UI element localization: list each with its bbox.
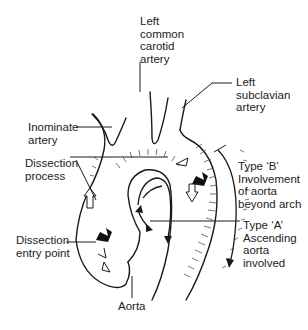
label-left-subclavian: Left subclavian artery [236,76,290,114]
type-b-arrowhead [226,258,234,268]
entry-point-tear [96,228,112,242]
aortic-dissection-diagram: Left common carotid artery Left subclavi… [0,0,308,330]
label-aorta: Aorta [118,300,146,313]
subclavian-left-wall [180,100,186,130]
aorta-inner-wall [128,170,172,300]
aorta-outer-left-wall [76,114,130,288]
type-b-arrow [218,150,236,262]
label-dissection-entry: Dissection entry point [16,234,70,259]
label-left-common-carotid: Left common carotid artery [140,15,184,65]
label-dissection-process: Dissection process [25,157,78,182]
open-arrow-down [98,248,110,272]
leader-subclavian-slant [182,83,212,108]
open-arrow-right [176,158,188,166]
type-a-down-arrow [138,210,150,228]
label-type-a: Type ‘A’ Ascending aorta involved [243,219,297,269]
type-a-arrow [138,178,171,238]
type-a-small-arrow [143,186,162,198]
open-arrow-b-down [186,184,198,202]
hatching-outer [184,144,217,277]
label-type-b: Type ‘B’ Involvement of aorta beyond arc… [238,160,301,210]
carotid-vessel [150,92,168,144]
hatching-inner-arch [116,149,182,168]
label-inominate: Inominate artery [28,121,79,146]
